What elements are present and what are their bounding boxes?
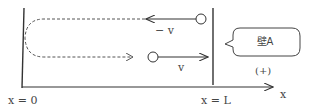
x-axis-label: x [280,89,286,100]
ball-top [196,14,206,24]
diagram-graphics [0,0,318,112]
positive-direction-label: (+) [255,66,271,76]
x-wall-label: x = L [201,95,231,106]
ball-bottom [148,52,158,62]
trajectory-dashed [25,19,145,57]
diagram-canvas: − v v 壁A (+) x = 0 x = L x [0,0,318,112]
left-wall [22,8,24,88]
velocity-label-positive: v [178,62,184,73]
wall-a-label: 壁A [232,33,298,48]
x-origin-label: x = 0 [8,95,37,106]
velocity-label-negative: − v [155,25,174,36]
